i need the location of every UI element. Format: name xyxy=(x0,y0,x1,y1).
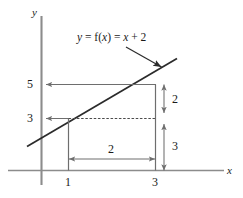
equation-pointer-arrow xyxy=(126,47,162,67)
measure-label-height: 3 xyxy=(172,140,178,152)
y-axis-label: y xyxy=(32,7,37,18)
y-tick-label-5: 5 xyxy=(27,78,33,90)
function-line xyxy=(27,59,177,147)
x-axis-label: x xyxy=(227,165,232,176)
equation-label: y = f(x) = x + 2 xyxy=(77,32,146,44)
measure-label-rise: 2 xyxy=(172,93,178,105)
measure-label-run: 2 xyxy=(108,143,114,155)
equation-part-eq1: = xyxy=(82,31,94,43)
equation-part-eq2: = xyxy=(111,31,123,43)
x-tick-label-1: 1 xyxy=(65,176,71,188)
y-tick-label-3: 3 xyxy=(27,112,33,124)
function-graph-figure: y x 5 3 1 3 2 2 3 y = f(x) = x + 2 xyxy=(0,0,243,198)
equation-part-plus: + 2 xyxy=(128,31,146,43)
x-tick-label-3: 3 xyxy=(152,176,158,188)
graph-canvas xyxy=(0,0,243,198)
